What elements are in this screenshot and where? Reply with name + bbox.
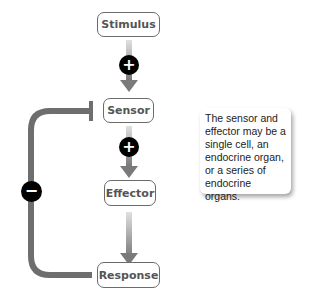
plus-sign-icon: + bbox=[119, 55, 139, 75]
note-callout: The sensor and effector may be a single … bbox=[200, 108, 291, 194]
plus-sign-icon: + bbox=[119, 137, 139, 157]
stimulus-node: Stimulus bbox=[97, 12, 160, 37]
inhibition-bar bbox=[89, 101, 93, 121]
sensor-node: Sensor bbox=[103, 98, 154, 123]
response-node: Response bbox=[97, 262, 160, 288]
arrow-effector-to-response bbox=[120, 212, 138, 265]
minus-sign-icon: − bbox=[21, 181, 42, 202]
effector-node: Effector bbox=[104, 180, 156, 206]
